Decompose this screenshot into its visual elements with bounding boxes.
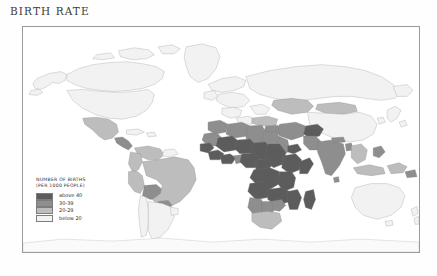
page-root: BIRTH RATE .c-hi { fill:#5c5c5c; stroke:…	[0, 0, 437, 276]
legend-label-30-39: 30-39	[59, 200, 74, 207]
legend-label-above-40: above 40	[59, 192, 82, 199]
legend-item: below 20	[36, 215, 124, 222]
legend-label-20-29: 20-29	[59, 207, 74, 214]
legend-item: 30-39	[36, 200, 124, 207]
legend-swatch-20-29	[36, 207, 53, 214]
page-title: BIRTH RATE	[10, 5, 90, 17]
legend-entries: above 40 30-39 20-29 below 20	[36, 192, 124, 222]
legend-item: 20-29	[36, 207, 124, 214]
legend-swatch-below-20	[36, 215, 53, 222]
legend-title-line2: (PER 1000 PEOPLE)	[36, 183, 124, 189]
legend-swatch-above-40	[36, 193, 53, 200]
legend-swatch-30-39	[36, 200, 53, 207]
map-panel: .c-hi { fill:#5c5c5c; stroke:#6f6f6f; st…	[22, 26, 420, 253]
legend-item: above 40	[36, 192, 124, 199]
map-legend: NUMBER OF BIRTHS (PER 1000 PEOPLE) above…	[34, 175, 126, 225]
legend-label-below-20: below 20	[59, 215, 82, 222]
